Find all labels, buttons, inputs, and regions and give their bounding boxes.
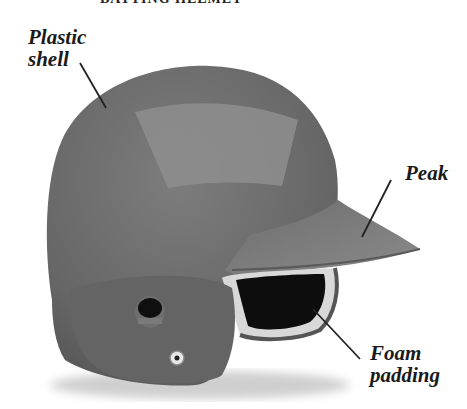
ear-hole-opening	[138, 298, 162, 318]
snap-rivet-center	[175, 356, 180, 361]
leader-line-foam-padding	[313, 309, 360, 359]
label-foam-padding: Foam padding	[370, 342, 440, 386]
label-peak: Peak	[405, 162, 448, 184]
ear-hole-bar	[138, 318, 162, 324]
label-plastic-shell: Plastic shell	[28, 26, 86, 70]
